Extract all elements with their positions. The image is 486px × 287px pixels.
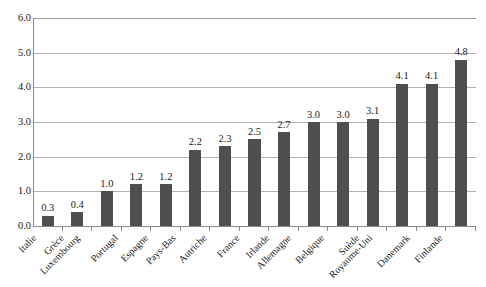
bar[interactable] — [308, 122, 320, 226]
bar-slot[interactable]: 4.1 — [417, 18, 447, 226]
bar[interactable] — [248, 139, 260, 226]
bar-value-label: 2.7 — [269, 120, 299, 131]
x-axis-label-cell: Finlande — [446, 231, 476, 287]
bar-value-label: 3.0 — [328, 110, 358, 121]
bar[interactable] — [455, 60, 467, 226]
bar-value-label: 2.3 — [210, 134, 240, 145]
y-axis-tick-label: 4.0 — [3, 82, 31, 93]
bar-value-label: 3.1 — [358, 106, 388, 117]
bars-layer: 0.30.41.01.21.22.22.32.52.73.03.03.14.14… — [33, 18, 476, 226]
bar-value-label: 0.4 — [63, 200, 93, 211]
bar-value-label: 3.0 — [299, 110, 329, 121]
bar-value-label: 1.0 — [92, 179, 122, 190]
bar-chart: 6.05.04.03.02.01.00.0 0.30.41.01.21.22.2… — [0, 0, 486, 287]
bar-value-label: 4.1 — [387, 71, 417, 82]
bar[interactable] — [42, 216, 54, 226]
bar[interactable] — [71, 212, 83, 226]
bar-value-label: 4.1 — [417, 71, 447, 82]
y-axis-line — [33, 18, 34, 226]
bar[interactable] — [426, 84, 438, 226]
bar[interactable] — [337, 122, 349, 226]
bar[interactable] — [367, 119, 379, 226]
y-axis-tick-label: 1.0 — [3, 186, 31, 197]
bar-slot[interactable]: 0.4 — [63, 18, 93, 226]
x-axis-category-labels: ItalieGrèceLuxembourgPortugalEspagnePays… — [33, 231, 476, 287]
bar-value-label: 4.8 — [446, 47, 476, 58]
bar-slot[interactable]: 2.7 — [269, 18, 299, 226]
bar-slot[interactable]: 2.3 — [210, 18, 240, 226]
bar-value-label: 1.2 — [151, 172, 181, 183]
bar[interactable] — [130, 184, 142, 226]
bar-slot[interactable]: 3.0 — [328, 18, 358, 226]
bar-slot[interactable]: 2.5 — [240, 18, 270, 226]
bar-value-label: 1.2 — [122, 172, 152, 183]
bar-slot[interactable]: 0.3 — [33, 18, 63, 226]
y-axis-tick-label: 0.0 — [3, 221, 31, 232]
y-axis-tick-label: 3.0 — [3, 117, 31, 128]
bar-slot[interactable]: 1.2 — [151, 18, 181, 226]
bar-value-label: 2.2 — [181, 137, 211, 148]
bar-value-label: 2.5 — [240, 127, 270, 138]
bar[interactable] — [278, 132, 290, 226]
bar-slot[interactable]: 1.0 — [92, 18, 122, 226]
bar[interactable] — [101, 191, 113, 226]
bar-slot[interactable]: 3.1 — [358, 18, 388, 226]
bar[interactable] — [219, 146, 231, 226]
bar-slot[interactable]: 1.2 — [122, 18, 152, 226]
y-axis-tick-label: 2.0 — [3, 151, 31, 162]
y-axis-tick-label: 5.0 — [3, 47, 31, 58]
y-axis-tick-label: 6.0 — [3, 13, 31, 24]
bar-slot[interactable]: 4.8 — [446, 18, 476, 226]
bar-value-label: 0.3 — [33, 203, 63, 214]
bar[interactable] — [160, 184, 172, 226]
bar-slot[interactable]: 2.2 — [181, 18, 211, 226]
bar-slot[interactable]: 4.1 — [387, 18, 417, 226]
bar[interactable] — [396, 84, 408, 226]
bar-slot[interactable]: 3.0 — [299, 18, 329, 226]
bar[interactable] — [189, 150, 201, 226]
plot-area: 0.30.41.01.21.22.22.32.52.73.03.03.14.14… — [33, 18, 476, 226]
